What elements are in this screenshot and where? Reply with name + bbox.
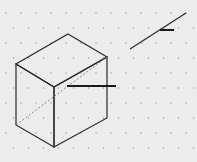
grid-dot xyxy=(193,87,194,88)
grid-dot xyxy=(155,42,156,43)
grid-dot xyxy=(73,147,74,148)
grid-dot xyxy=(178,87,179,88)
grid-dot xyxy=(95,12,96,13)
grid-dot xyxy=(50,12,51,13)
grid-dot xyxy=(140,12,141,13)
grid-dot xyxy=(118,87,119,88)
grid-dot xyxy=(170,102,171,103)
grid-dot xyxy=(58,117,59,118)
grid-dot xyxy=(20,42,21,43)
grid-dot xyxy=(133,57,134,58)
slanted-line xyxy=(130,13,186,49)
grid-dot xyxy=(50,132,51,133)
grid-dot xyxy=(163,117,164,118)
grid-dot xyxy=(50,102,51,103)
dot-grid xyxy=(5,12,194,148)
grid-dot xyxy=(103,27,104,28)
grid-dot xyxy=(73,117,74,118)
grid-dot xyxy=(170,42,171,43)
grid-dot xyxy=(58,27,59,28)
grid-dot xyxy=(133,27,134,28)
grid-dot xyxy=(35,72,36,73)
isometric-diagram xyxy=(0,0,197,162)
grid-dot xyxy=(178,147,179,148)
grid-dot xyxy=(20,72,21,73)
grid-dot xyxy=(118,147,119,148)
grid-dot xyxy=(28,27,29,28)
cube-right-face xyxy=(54,57,107,147)
grid-dot xyxy=(193,117,194,118)
grid-dot xyxy=(5,72,6,73)
grid-dot xyxy=(20,12,21,13)
grid-dot xyxy=(50,72,51,73)
grid-dot xyxy=(28,117,29,118)
grid-dot xyxy=(110,42,111,43)
grid-dot xyxy=(43,117,44,118)
grid-dot xyxy=(133,87,134,88)
grid-dot xyxy=(5,42,6,43)
grid-dot xyxy=(155,12,156,13)
grid-dot xyxy=(125,72,126,73)
grid-dot xyxy=(155,132,156,133)
cube-left-face xyxy=(16,64,54,147)
grid-dot xyxy=(13,57,14,58)
grid-dot xyxy=(65,102,66,103)
grid-dot xyxy=(13,27,14,28)
grid-dot xyxy=(110,102,111,103)
grid-dot xyxy=(170,72,171,73)
grid-dot xyxy=(88,27,89,28)
grid-dot xyxy=(110,12,111,13)
grid-dot xyxy=(148,27,149,28)
grid-dot xyxy=(5,102,6,103)
grid-dot xyxy=(35,102,36,103)
grid-dot xyxy=(35,132,36,133)
grid-dot xyxy=(155,72,156,73)
grid-dot xyxy=(185,132,186,133)
grid-dot xyxy=(5,132,6,133)
grid-dot xyxy=(118,117,119,118)
grid-dot xyxy=(5,12,6,13)
grid-dot xyxy=(95,72,96,73)
drawing xyxy=(16,13,186,147)
grid-dot xyxy=(148,117,149,118)
grid-dot xyxy=(73,57,74,58)
grid-dot xyxy=(58,87,59,88)
grid-dot xyxy=(193,57,194,58)
grid-dot xyxy=(133,117,134,118)
grid-dot xyxy=(43,57,44,58)
grid-dot xyxy=(125,12,126,13)
grid-dot xyxy=(65,12,66,13)
grid-dot xyxy=(95,42,96,43)
grid-dot xyxy=(125,132,126,133)
grid-dot xyxy=(35,42,36,43)
grid-dot xyxy=(170,12,171,13)
grid-dot xyxy=(103,87,104,88)
grid-dot xyxy=(80,102,81,103)
grid-dot xyxy=(170,132,171,133)
grid-dot xyxy=(140,72,141,73)
grid-dot xyxy=(103,117,104,118)
grid-dot xyxy=(43,27,44,28)
grid-dot xyxy=(58,57,59,58)
grid-dot xyxy=(178,57,179,58)
grid-dot xyxy=(13,117,14,118)
cube-top-face xyxy=(16,34,107,87)
grid-dot xyxy=(110,132,111,133)
grid-dot xyxy=(28,87,29,88)
grid-dot xyxy=(163,57,164,58)
grid-dot xyxy=(148,87,149,88)
grid-dot xyxy=(185,102,186,103)
grid-dot xyxy=(28,147,29,148)
grid-dot xyxy=(118,57,119,58)
grid-dot xyxy=(148,57,149,58)
grid-dot xyxy=(95,102,96,103)
grid-dot xyxy=(88,117,89,118)
grid-dot xyxy=(73,27,74,28)
grid-dot xyxy=(178,27,179,28)
grid-dot xyxy=(80,12,81,13)
grid-dot xyxy=(20,132,21,133)
grid-dot xyxy=(125,102,126,103)
grid-dot xyxy=(88,147,89,148)
grid-dot xyxy=(13,87,14,88)
grid-dot xyxy=(140,132,141,133)
